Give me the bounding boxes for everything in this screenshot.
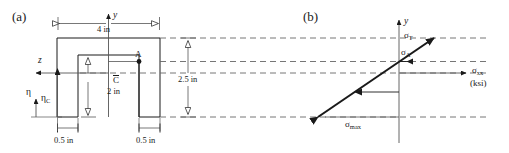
sigma-xx-unit-label: (ksi) <box>470 79 487 88</box>
sigma-max-label: σmax <box>345 120 361 129</box>
point-a-label: A <box>135 50 142 59</box>
y-axis-label-a: y <box>113 11 117 21</box>
stress-distribution-line <box>318 38 434 117</box>
dimension-left-thickness <box>58 118 79 131</box>
sigma-xx-subscript: xx <box>477 69 484 76</box>
z-axis-label-a: z <box>38 56 42 66</box>
dimension-right-thickness-label: 0.5 in <box>136 136 155 145</box>
figure-drawing <box>0 0 509 153</box>
sigma-t-subscript: T <box>409 34 413 41</box>
sigma-a-label: σA <box>401 48 411 57</box>
dimension-height-2in <box>81 58 96 117</box>
panel-b-tag: (b) <box>303 10 318 23</box>
y-axis-label-b: y <box>404 17 408 27</box>
sigma-max-subscript: max <box>350 123 361 130</box>
dimension-inner-height-label: 2 in <box>107 87 120 96</box>
dimension-width-label: 4 in <box>97 25 110 34</box>
sigma-a-subscript: A <box>406 51 411 58</box>
centroid-c-symbol: C <box>113 75 119 85</box>
eta-axis-label-a: η <box>26 88 31 98</box>
interior-stress-arrow <box>354 89 399 96</box>
sigma-t-label: σT <box>404 31 413 40</box>
sigma-xx-label: σxx <box>472 66 483 75</box>
eta-c-label-a: ηC <box>41 94 50 104</box>
eta-axis-a <box>31 69 62 117</box>
dimension-2p5in-label: 2.5 in <box>178 75 197 84</box>
centroid-label: C <box>113 75 119 85</box>
eta-c-subscript: C <box>46 97 50 104</box>
panel-a-tag: (a) <box>12 10 26 23</box>
figure-container: (a) (b) y z η ηC C A 4 in 2 in 0.5 in 0.… <box>0 0 509 153</box>
dimension-left-thickness-label: 0.5 in <box>54 136 73 145</box>
dimension-right-thickness <box>139 118 160 131</box>
